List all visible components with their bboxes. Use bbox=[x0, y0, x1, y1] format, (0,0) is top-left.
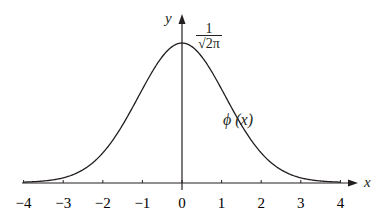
peak-label: 1 √2π bbox=[196, 22, 222, 51]
x-tick-label: −3 bbox=[55, 195, 71, 211]
x-axis-arrow-icon bbox=[348, 180, 358, 187]
chart-canvas: −4−3−2−101234 bbox=[0, 0, 381, 224]
x-tick-label: 2 bbox=[257, 195, 265, 211]
x-tick-label: 4 bbox=[337, 195, 345, 211]
x-tick-label: −1 bbox=[134, 195, 150, 211]
x-tick-label: 0 bbox=[178, 195, 186, 211]
x-tick-label: 3 bbox=[297, 195, 305, 211]
peak-numerator: 1 bbox=[196, 22, 222, 35]
x-tick-label: −2 bbox=[95, 195, 111, 211]
peak-denominator: √2π bbox=[196, 35, 222, 51]
x-tick-label: 1 bbox=[218, 195, 226, 211]
curve-label: ϕ (x) bbox=[223, 111, 253, 129]
x-axis-label: x bbox=[364, 174, 371, 191]
y-axis-label: y bbox=[165, 10, 172, 27]
y-axis-arrow-icon bbox=[179, 14, 186, 24]
x-tick-label: −4 bbox=[16, 195, 32, 211]
